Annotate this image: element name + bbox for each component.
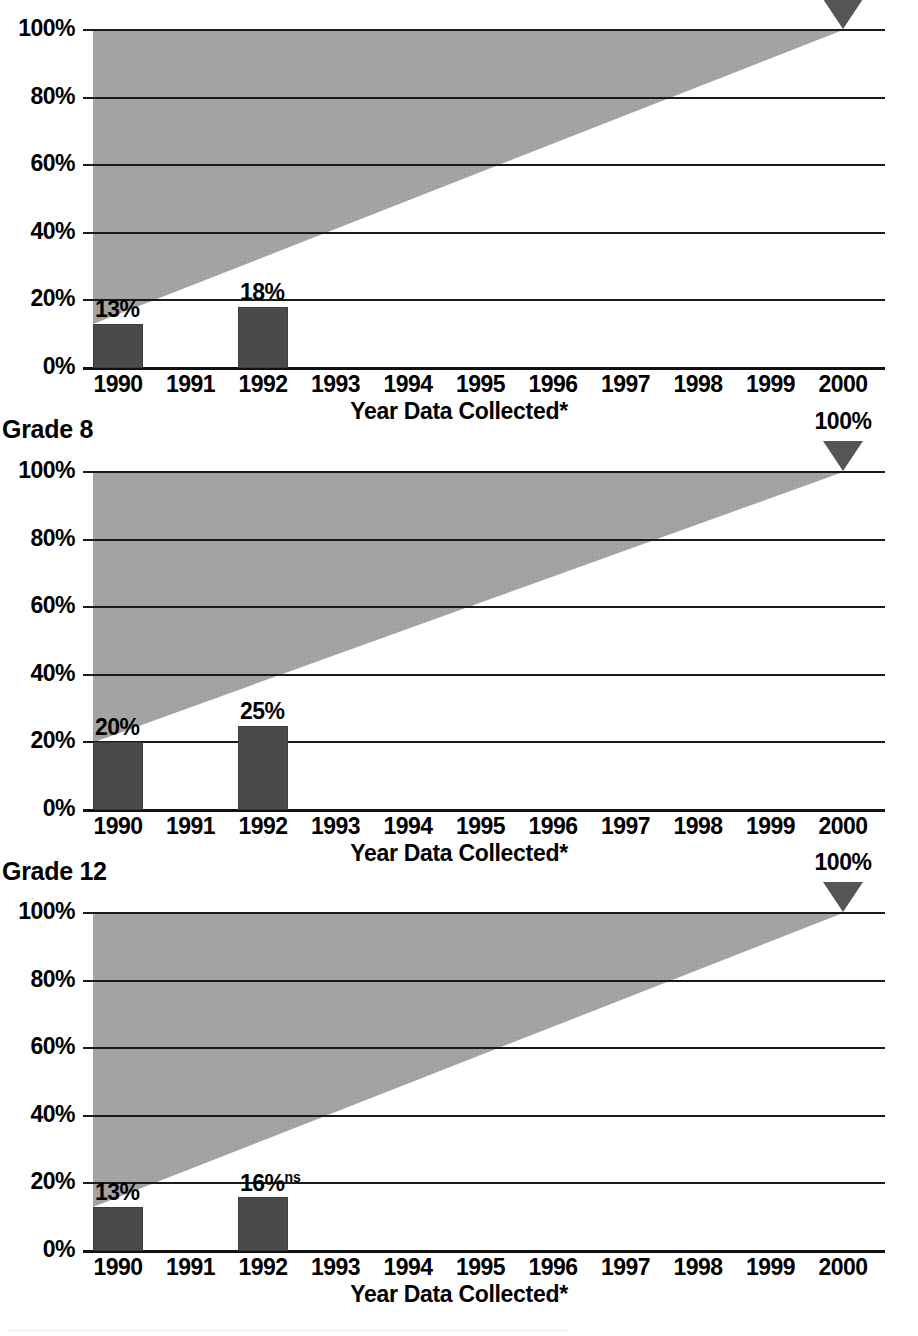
x-axis-tick-label: 1995	[441, 1254, 521, 1281]
gridline-20	[83, 1182, 885, 1184]
x-axis-tick-label: 1996	[513, 371, 593, 398]
y-axis-tick-label: 40%	[0, 660, 75, 687]
trend-band-region	[93, 913, 885, 1251]
y-axis-tick-label: 40%	[0, 218, 75, 245]
bar-value-label-1992: 18%	[240, 279, 285, 306]
x-axis-tick-label: 1992	[223, 813, 303, 840]
bar-value-label-1990: 20%	[95, 714, 140, 741]
data-bar-1992	[238, 307, 288, 368]
gridline-100	[83, 471, 885, 473]
panel-title-grade: Grade 8	[2, 415, 93, 444]
x-axis-tick-label: 1995	[441, 371, 521, 398]
gridline-0	[83, 367, 885, 370]
x-axis-tick-label: 1999	[731, 1254, 811, 1281]
y-axis-tick-label: 100%	[0, 15, 75, 42]
goal-value-label: 100%	[788, 408, 898, 435]
footer-rule	[8, 1330, 568, 1331]
x-axis-tick-label: 2000	[803, 813, 883, 840]
x-axis-tick-label: 1999	[731, 813, 811, 840]
bar-value-label-1992: 25%	[240, 698, 285, 725]
y-axis-tick-label: 100%	[0, 457, 75, 484]
x-axis-tick-label: 1996	[513, 813, 593, 840]
x-axis-tick-label: 1994	[368, 371, 448, 398]
x-axis-tick-label: 1997	[586, 371, 666, 398]
x-axis-title: Year Data Collected*	[0, 840, 918, 867]
significance-note: ns	[285, 1169, 301, 1185]
x-axis-tick-label: 1994	[368, 1254, 448, 1281]
down-triangle-icon	[823, 0, 863, 29]
x-axis-tick-label: 1999	[731, 371, 811, 398]
gridline-0	[83, 1250, 885, 1253]
x-axis-tick-label: 1998	[658, 1254, 738, 1281]
gridline-40	[83, 674, 885, 676]
gridline-20	[83, 299, 885, 301]
x-axis-tick-label: 1992	[223, 371, 303, 398]
y-axis-tick-label: 60%	[0, 592, 75, 619]
gridline-60	[83, 1047, 885, 1049]
data-bar-1992	[238, 1197, 288, 1251]
gridline-80	[83, 97, 885, 99]
y-axis-tick-label: 0%	[0, 795, 75, 822]
trend-band-region	[93, 30, 885, 368]
y-axis-tick-label: 100%	[0, 898, 75, 925]
y-axis-tick-label: 40%	[0, 1101, 75, 1128]
x-axis-tick-label: 1998	[658, 813, 738, 840]
x-axis-tick-label: 1997	[586, 813, 666, 840]
data-bar-1990	[93, 1207, 143, 1251]
down-triangle-icon	[823, 441, 863, 471]
y-axis-tick-label: 20%	[0, 1168, 75, 1195]
gridline-100	[83, 912, 885, 914]
y-axis-tick-label: 60%	[0, 150, 75, 177]
gridline-80	[83, 539, 885, 541]
bar-value-label-1990: 13%	[95, 1179, 140, 1206]
down-triangle-icon	[823, 882, 863, 912]
y-axis-tick-label: 0%	[0, 1236, 75, 1263]
gridline-80	[83, 980, 885, 982]
bar-value-label-1992: 16%ns	[240, 1169, 301, 1197]
y-axis-tick-label: 80%	[0, 525, 75, 552]
y-axis-tick-label: 20%	[0, 727, 75, 754]
x-axis-tick-label: 1996	[513, 1254, 593, 1281]
x-axis-tick-label: 1990	[78, 813, 158, 840]
x-axis-tick-label: 1994	[368, 813, 448, 840]
y-axis-tick-label: 60%	[0, 1033, 75, 1060]
bar-value-label-1990: 13%	[95, 296, 140, 323]
x-axis-tick-label: 1993	[296, 1254, 376, 1281]
gridline-40	[83, 232, 885, 234]
data-bar-1990	[93, 742, 143, 810]
gridline-20	[83, 741, 885, 743]
x-axis-tick-label: 1990	[78, 371, 158, 398]
x-axis-tick-label: 1993	[296, 371, 376, 398]
gridline-60	[83, 164, 885, 166]
gridline-40	[83, 1115, 885, 1117]
y-axis-tick-label: 0%	[0, 353, 75, 380]
data-bar-1990	[93, 324, 143, 368]
x-axis-tick-label: 2000	[803, 1254, 883, 1281]
x-axis-tick-label: 1997	[586, 1254, 666, 1281]
x-axis-tick-label: 1991	[151, 813, 231, 840]
x-axis-tick-label: 1991	[151, 1254, 231, 1281]
x-axis-tick-label: 1995	[441, 813, 521, 840]
panel-title-grade: Grade 12	[2, 857, 107, 886]
data-bar-1992	[238, 726, 288, 811]
y-axis-tick-label: 80%	[0, 83, 75, 110]
x-axis-tick-label: 1993	[296, 813, 376, 840]
y-axis-tick-label: 20%	[0, 285, 75, 312]
y-axis-tick-label: 80%	[0, 966, 75, 993]
x-axis-tick-label: 1998	[658, 371, 738, 398]
bar-value-text: 16%	[240, 1170, 285, 1196]
gridline-0	[83, 809, 885, 812]
x-axis-title: Year Data Collected*	[0, 1281, 918, 1308]
x-axis-tick-label: 1991	[151, 371, 231, 398]
goal-value-label: 100%	[788, 849, 898, 876]
gridline-60	[83, 606, 885, 608]
x-axis-title: Year Data Collected*	[0, 398, 918, 425]
x-axis-tick-label: 1992	[223, 1254, 303, 1281]
x-axis-tick-label: 1990	[78, 1254, 158, 1281]
gridline-100	[83, 29, 885, 31]
trend-band-region	[93, 472, 885, 810]
x-axis-tick-label: 2000	[803, 371, 883, 398]
